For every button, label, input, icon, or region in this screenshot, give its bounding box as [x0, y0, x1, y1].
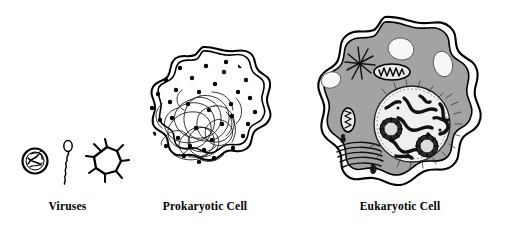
- panel-label-eukaryotic-cell: Eukaryotic Cell: [320, 200, 480, 212]
- nucleolus-left: [380, 118, 402, 140]
- panel-label-prokaryotic-cell: Prokaryotic Cell: [140, 200, 270, 212]
- viruses-panel: [23, 139, 130, 184]
- nucleolus-right: [416, 135, 438, 157]
- spiked-virus: [86, 139, 129, 182]
- prokaryotic-cell-panel: [150, 47, 271, 164]
- spherical-virus: [23, 149, 48, 174]
- mitochondrion-lower: [341, 108, 355, 132]
- panel-label-viruses: Viruses: [0, 200, 135, 212]
- eukaryotic-cell-panel: [318, 17, 481, 185]
- mitochondrion-upper: [374, 64, 410, 80]
- filamentous-virus: [64, 141, 72, 184]
